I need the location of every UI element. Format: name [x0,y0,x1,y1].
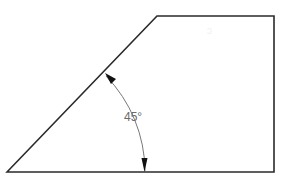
trapezoid-diagram: 45° ↄ [0,0,285,182]
arrowhead-upper-icon [105,73,116,84]
arrowhead-lower-icon [142,158,148,172]
angle-label: 45° [124,110,142,124]
faint-mark: ↄ [207,25,212,36]
trapezoid-shape [7,16,274,172]
